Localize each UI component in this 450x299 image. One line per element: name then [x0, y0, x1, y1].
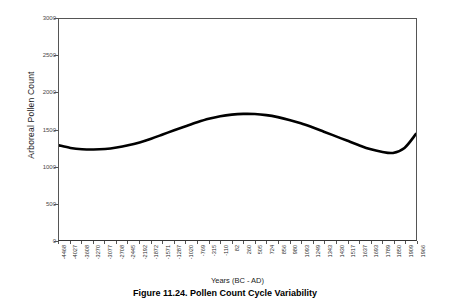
x-axis-tick-mark	[232, 241, 233, 244]
x-axis-tick-mark	[278, 241, 279, 244]
x-axis-tick-label: 1850	[396, 245, 402, 257]
x-axis-tick-label: 1693	[373, 245, 379, 257]
x-axis-tick-mark	[394, 241, 395, 244]
x-axis-tick-mark	[255, 241, 256, 244]
x-axis-tick-label: -1872	[153, 245, 159, 259]
x-axis-tick-label: 1637	[362, 245, 368, 257]
x-axis-tick-label: -4027	[72, 245, 78, 259]
x-axis-tick-mark	[58, 241, 59, 244]
x-axis-tick-label: 82	[234, 245, 240, 251]
x-axis-tick-label: 724	[269, 245, 275, 254]
x-axis-tick-mark	[220, 241, 221, 244]
x-axis-tick-mark	[405, 241, 406, 244]
x-axis-tick-label: 1093	[304, 245, 310, 257]
x-axis-tick-mark	[151, 241, 152, 244]
x-axis-tick-label-group: -4468-4027-3608-3270-3077-2708-2445-2192…	[58, 245, 417, 275]
y-axis-tick-label: 1000	[26, 164, 56, 170]
x-axis-title: Years (BC - AD)	[58, 276, 417, 285]
y-axis-tick-label: 3000	[26, 15, 56, 21]
figure-caption: Figure 11.24. Pollen Count Cycle Variabi…	[0, 288, 450, 298]
x-axis-tick-label: 980	[292, 245, 298, 254]
y-axis-tick-label: 2000	[26, 89, 56, 95]
x-axis-tick-mark	[174, 241, 175, 244]
y-axis-tick-label: 1500	[26, 127, 56, 133]
x-axis-tick-label: -3608	[84, 245, 90, 259]
x-axis-tick-mark	[243, 241, 244, 244]
x-axis-tick-label: 1249	[315, 245, 321, 257]
plot-area	[58, 18, 417, 241]
x-axis-tick-mark	[104, 241, 105, 244]
x-axis-tick-label: -110	[223, 245, 229, 256]
x-axis-tick-mark	[116, 241, 117, 244]
x-axis-tick-label: 1343	[327, 245, 333, 257]
x-axis-tick-label: 1789	[385, 245, 391, 257]
x-axis-tick-label: -2445	[130, 245, 136, 259]
x-axis-tick-mark	[93, 241, 94, 244]
y-axis-tick-mark	[54, 92, 58, 93]
x-axis-tick-label: 1966	[420, 245, 426, 257]
y-axis-tick-mark	[54, 167, 58, 168]
x-axis-tick-mark	[81, 241, 82, 244]
y-axis-tick-label: 2500	[26, 52, 56, 58]
x-axis-tick-label: -1571	[165, 245, 171, 259]
x-axis-tick-label: -4468	[61, 245, 67, 259]
x-axis-tick-label: 856	[281, 245, 287, 254]
y-axis-tick-mark	[54, 55, 58, 56]
x-axis-tick-mark	[382, 241, 383, 244]
x-axis-tick-label: 1430	[339, 245, 345, 257]
x-axis-tick-mark	[290, 241, 291, 244]
x-axis-tick-label: -769	[200, 245, 206, 256]
x-axis-tick-mark	[371, 241, 372, 244]
x-axis-tick-mark	[209, 241, 210, 244]
x-axis-tick-label: -315	[211, 245, 217, 256]
x-axis-tick-mark	[313, 241, 314, 244]
x-axis-tick-mark	[336, 241, 337, 244]
pollen-count-line-chart	[59, 19, 416, 240]
pollen-count-figure: Arboreal Pollen Count 050010001500200025…	[0, 0, 450, 299]
y-axis-tick-label: 0	[26, 238, 56, 244]
x-axis-tick-mark	[301, 241, 302, 244]
x-axis-tick-label: -2708	[119, 245, 125, 259]
x-axis-tick-label: 1517	[350, 245, 356, 257]
y-axis-tick-mark	[54, 204, 58, 205]
x-axis-tick-mark	[266, 241, 267, 244]
x-axis-tick-label: 505	[257, 245, 263, 254]
y-axis-tick-mark	[54, 241, 58, 242]
y-axis-tick-label-group: 050010001500200025003000	[26, 18, 56, 241]
x-axis-tick-mark	[127, 241, 128, 244]
y-axis-tick-mark	[54, 18, 58, 19]
y-axis-tick-label: 500	[26, 201, 56, 207]
x-axis-tick-mark	[197, 241, 198, 244]
x-axis-tick-mark	[324, 241, 325, 244]
x-axis-tick-mark	[162, 241, 163, 244]
x-axis-tick-mark	[185, 241, 186, 244]
x-axis-tick-mark	[359, 241, 360, 244]
x-axis-tick-label: -1020	[188, 245, 194, 259]
x-axis-tick-mark	[70, 241, 71, 244]
x-axis-tick-label: 260	[246, 245, 252, 254]
x-axis-tick-label: 1909	[408, 245, 414, 257]
x-axis-tick-mark	[417, 241, 418, 244]
x-axis-tick-label: -3077	[107, 245, 113, 259]
y-axis-tick-mark	[54, 130, 58, 131]
x-axis-tick-mark	[139, 241, 140, 244]
x-axis-tick-mark	[348, 241, 349, 244]
x-axis-tick-label: -1287	[176, 245, 182, 259]
series-line-arboreal-pollen-count	[59, 114, 416, 153]
x-axis-tick-label: -2192	[142, 245, 148, 259]
x-axis-tick-label: -3270	[95, 245, 101, 259]
